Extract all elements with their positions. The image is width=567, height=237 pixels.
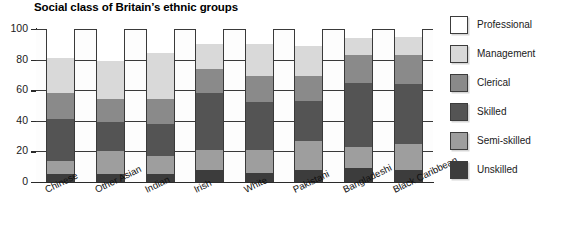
bar-segment: [246, 150, 273, 173]
bar-segment: [246, 102, 273, 149]
bar-column[interactable]: [46, 29, 75, 182]
bar-segment: [196, 44, 223, 68]
bar-segment: [395, 144, 422, 170]
legend-item-label: Management: [477, 48, 535, 59]
legend-item-label: Skilled: [477, 106, 506, 117]
bar-segment: [147, 156, 174, 174]
legend-color-swatch: [450, 45, 468, 63]
bar-segment: [395, 37, 422, 55]
plot-area: [36, 29, 433, 182]
bar-segment: [395, 55, 422, 84]
y-axis-tick-label: 20: [0, 145, 28, 155]
bar-segment: [196, 69, 223, 93]
bar-segment: [97, 61, 124, 99]
legend-item-label: Clerical: [477, 77, 510, 88]
bar-segment: [295, 29, 322, 46]
bar-segment: [147, 53, 174, 99]
bar-segment: [196, 150, 223, 170]
bar-segment: [47, 119, 74, 160]
bar-column[interactable]: [394, 29, 423, 182]
chart-figure: Social class of Britain’s ethnic groups …: [0, 0, 567, 237]
y-axis-tick-mark: [31, 182, 37, 183]
bar-segment: [97, 122, 124, 151]
y-axis-tick-label: 100: [0, 23, 28, 33]
bar-segment: [246, 44, 273, 76]
legend-color-swatch: [450, 103, 468, 121]
bar-segment: [295, 141, 322, 170]
bar-segment: [196, 93, 223, 150]
legend-item-label: Semi-skilled: [477, 135, 531, 146]
bar-column[interactable]: [195, 29, 224, 182]
bar-segment: [97, 29, 124, 61]
bar-column[interactable]: [146, 29, 175, 182]
bar-segment: [246, 29, 273, 44]
legend-color-swatch: [450, 132, 468, 150]
bar-segment: [47, 58, 74, 93]
bar-segment: [345, 83, 372, 147]
bar-segment: [395, 29, 422, 37]
bar-segment: [295, 46, 322, 77]
y-axis-tick-label: 0: [0, 176, 28, 186]
bar-segment: [395, 84, 422, 144]
bar-segment: [295, 101, 322, 141]
bar-segment: [295, 76, 322, 100]
bar-segment: [345, 29, 372, 38]
y-axis-tick-label: 40: [0, 115, 28, 125]
bar-segment: [345, 147, 372, 168]
bar-column[interactable]: [344, 29, 373, 182]
bar-segment: [147, 99, 174, 123]
y-axis-tick-label: 80: [0, 54, 28, 64]
bar-column[interactable]: [294, 29, 323, 182]
bar-column[interactable]: [245, 29, 274, 182]
legend-item-label: Professional: [477, 19, 532, 30]
bar-segment: [97, 99, 124, 122]
bar-segment: [196, 29, 223, 44]
bar-segment: [147, 124, 174, 156]
legend-color-swatch: [450, 161, 468, 179]
y-axis-tick-label: 60: [0, 84, 28, 94]
legend-color-swatch: [450, 74, 468, 92]
legend-color-swatch: [450, 16, 468, 34]
bar-segment: [47, 29, 74, 58]
bar-column[interactable]: [96, 29, 125, 182]
bar-segment: [47, 93, 74, 119]
legend-item-label: Unskilled: [477, 164, 518, 175]
bar-segment: [345, 38, 372, 55]
bar-segment: [246, 76, 273, 102]
bar-segment: [147, 29, 174, 53]
bar-segment: [345, 55, 372, 83]
